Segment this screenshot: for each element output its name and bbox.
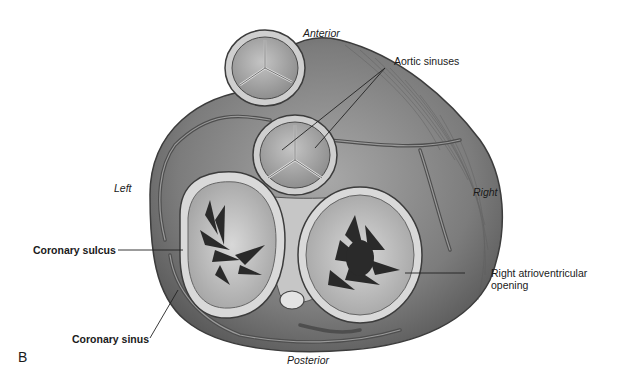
orientation-right: Right	[473, 186, 498, 198]
label-coronary-sinus: Coronary sinus	[72, 333, 149, 345]
pulmonary-valve	[225, 30, 305, 106]
label-right-av-opening: Right atrioventricular opening	[491, 267, 611, 291]
leader-coronary-sinus	[150, 290, 178, 338]
panel-letter: B	[18, 349, 27, 365]
label-aortic-sinuses: Aortic sinuses	[394, 55, 459, 67]
right-atrioventricular-opening	[298, 187, 422, 323]
orientation-anterior: Anterior	[303, 27, 340, 39]
heart-valves-illustration	[0, 0, 624, 388]
orientation-posterior: Posterior	[287, 354, 329, 366]
aortic-valve	[253, 115, 337, 195]
label-coronary-sulcus: Coronary sulcus	[33, 244, 116, 256]
left-atrioventricular-opening	[180, 172, 285, 318]
orientation-left: Left	[114, 182, 132, 194]
